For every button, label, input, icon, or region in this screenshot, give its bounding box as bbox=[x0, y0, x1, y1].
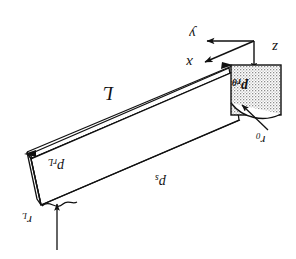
figure-root: L prL ps prθ r0 rL x y z bbox=[0, 0, 296, 259]
axis-label-z: z bbox=[272, 40, 278, 55]
label-p-r-theta: prθ bbox=[232, 76, 248, 93]
beam-diagram-svg bbox=[0, 0, 296, 259]
label-p-rL: prL bbox=[48, 156, 64, 173]
label-r-0: r0 bbox=[256, 131, 265, 147]
label-r-L: rL bbox=[22, 211, 32, 227]
label-p-s: ps bbox=[155, 172, 166, 189]
axis-label-y: y bbox=[189, 26, 196, 41]
label-length-L: L bbox=[103, 84, 114, 103]
axis-x-line bbox=[205, 41, 254, 62]
axis-label-x: x bbox=[186, 55, 193, 70]
beam-side-face bbox=[31, 72, 239, 205]
beam-body bbox=[24, 62, 240, 205]
